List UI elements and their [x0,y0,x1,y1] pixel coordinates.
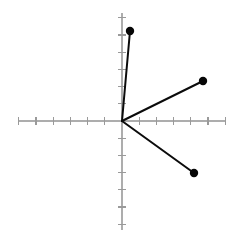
vector-plot-figure [0,0,241,241]
vector-endpoint-markers [126,27,207,177]
vector-series-group [122,31,203,173]
vector-line [122,31,130,121]
vector-endpoint-dot [199,77,207,85]
vector-line [122,121,194,173]
plot-canvas [0,0,241,241]
vector-endpoint-dot [190,169,198,177]
vector-endpoint-dot [126,27,134,35]
vector-line [122,81,203,121]
